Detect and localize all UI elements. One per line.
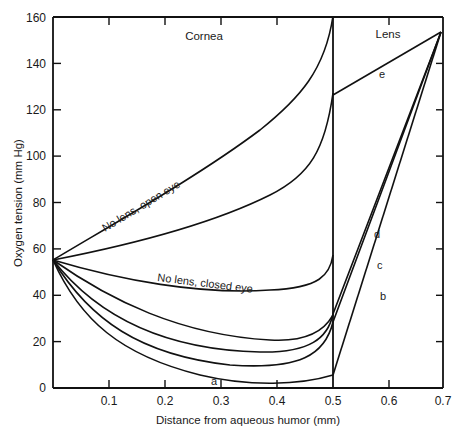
curve-open-eye [53, 16, 333, 260]
x-tick-0.7: 0.7 [435, 394, 452, 408]
x-tick-labels: 0.1 0.2 0.3 0.4 0.5 0.6 0.7 [101, 394, 452, 408]
label-a: a [211, 375, 218, 387]
y-tick-160: 160 [26, 11, 46, 25]
x-tick-0.5: 0.5 [325, 394, 342, 408]
x-axis-title: Distance from aqueous humor (mm) [156, 414, 340, 426]
curve-c [53, 32, 441, 366]
x-tick-0.3: 0.3 [213, 394, 230, 408]
label-c: c [377, 259, 383, 271]
y-tick-labels: 0 20 40 60 80 100 120 140 160 [26, 11, 46, 395]
x-tick-0.2: 0.2 [157, 394, 174, 408]
x-tick-0.1: 0.1 [101, 394, 118, 408]
y-tick-140: 140 [26, 57, 46, 71]
label-d: d [374, 228, 380, 240]
y-tick-20: 20 [33, 335, 47, 349]
y-tick-100: 100 [26, 149, 46, 163]
x-tick-0.6: 0.6 [381, 394, 398, 408]
x-tick-0.4: 0.4 [269, 394, 286, 408]
lens-label: Lens [376, 28, 401, 40]
cornea-label: Cornea [185, 30, 223, 42]
y-tick-0: 0 [39, 381, 46, 395]
y-axis-title: Oxygen tension (mm Hg) [12, 139, 24, 267]
label-closed-eye: No lens, closed eye [157, 271, 254, 295]
y-tick-60: 60 [33, 242, 47, 256]
label-b: b [380, 290, 386, 302]
y-tick-120: 120 [26, 103, 46, 117]
y-tick-40: 40 [33, 288, 47, 302]
oxygen-tension-chart: 0 20 40 60 80 100 120 140 160 0.1 0.2 0.… [0, 0, 469, 431]
curve-b-lens [333, 32, 441, 375]
label-open-eye: No lens, open eye [100, 178, 182, 234]
curve-d [53, 32, 441, 352]
label-e: e [379, 68, 385, 80]
y-tick-80: 80 [33, 196, 47, 210]
